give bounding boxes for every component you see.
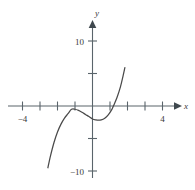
graph-figure: −4 4 10 −10 x y (0, 0, 195, 190)
y-tick-label--10: −10 (70, 167, 85, 177)
x-tick-label-4: 4 (160, 114, 165, 124)
y-tick-label-10: 10 (75, 37, 85, 47)
cubic-curve (48, 68, 125, 168)
cubic-function-plot: −4 4 10 −10 x y (0, 0, 195, 190)
x-tick-label--4: −4 (18, 114, 28, 124)
y-axis-label: y (94, 8, 99, 18)
x-axis-label: x (183, 101, 188, 111)
x-axis-arrow-icon (174, 102, 182, 110)
y-axis-arrow-icon (89, 20, 97, 28)
